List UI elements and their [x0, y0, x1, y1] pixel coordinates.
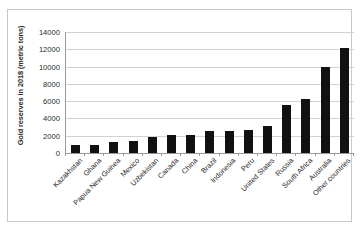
bar[interactable] [263, 126, 272, 153]
bar[interactable] [71, 145, 80, 153]
y-axis-tick-label: 2000 [43, 131, 60, 140]
y-axis-tick-label: 10000 [39, 62, 60, 71]
bar-slot [315, 32, 334, 153]
chart-container: Gold reserves in 2018 (metric tons) 0200… [7, 9, 352, 222]
bar[interactable] [321, 67, 330, 153]
bar-slot [124, 32, 143, 153]
plot-area [65, 32, 354, 154]
y-axis-tick-label: 0 [56, 149, 60, 158]
bar[interactable] [129, 141, 138, 153]
bar[interactable] [109, 142, 118, 153]
bar-slot [258, 32, 277, 153]
y-axis-tick-label: 14000 [39, 28, 60, 37]
bar[interactable] [244, 130, 253, 153]
bar-slot [143, 32, 162, 153]
bar-slot [220, 32, 239, 153]
bar[interactable] [205, 131, 214, 153]
bar-slot [162, 32, 181, 153]
bar[interactable] [340, 48, 349, 153]
y-axis-tick-label: 8000 [43, 79, 60, 88]
bar[interactable] [282, 105, 291, 153]
x-axis-category-label: China [179, 156, 199, 176]
y-axis-tick-label: 12000 [39, 45, 60, 54]
bar[interactable] [225, 131, 234, 153]
x-axis-category-labels: KazakhstanGhanaPapua New GuineaMexicoUzb… [65, 156, 360, 228]
bar[interactable] [148, 137, 157, 153]
bar-slot [85, 32, 104, 153]
x-axis-category-label: Canada [156, 156, 180, 180]
y-axis-title: Gold reserves in 2018 (metric tons) [14, 10, 28, 160]
y-axis-title-text: Gold reserves in 2018 (metric tons) [17, 25, 26, 145]
y-axis-tick-label: 4000 [43, 114, 60, 123]
bar-slot [104, 32, 123, 153]
bar[interactable] [167, 135, 176, 153]
bar-slot [239, 32, 258, 153]
y-axis-tick-labels: 02000400060008000100001200014000 [28, 28, 62, 156]
bar-slot [296, 32, 315, 153]
bar[interactable] [90, 145, 99, 153]
bar-slot [200, 32, 219, 153]
bar-slot [66, 32, 85, 153]
y-axis-tick-label: 6000 [43, 97, 60, 106]
bar-series [66, 32, 354, 153]
bar[interactable] [301, 99, 310, 153]
bar-slot [181, 32, 200, 153]
x-axis-category-label: Kazakhstan [51, 156, 84, 189]
bar[interactable] [186, 135, 195, 153]
bar-slot [335, 32, 354, 153]
bar-slot [277, 32, 296, 153]
